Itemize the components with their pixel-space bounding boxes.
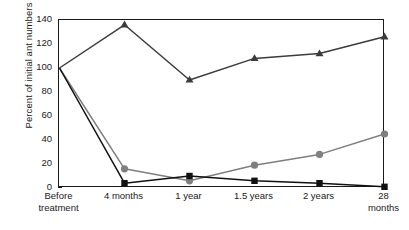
data-series-layer xyxy=(59,20,385,188)
series-circle xyxy=(60,68,389,184)
x-tick-label: Before treatment xyxy=(38,190,78,213)
square-marker xyxy=(121,180,127,186)
circle-marker xyxy=(381,130,388,137)
series-line xyxy=(60,68,385,181)
y-tick-label: 40 xyxy=(18,134,52,144)
y-tick-label: 100 xyxy=(18,62,52,72)
y-tick-label: 60 xyxy=(18,110,52,120)
circle-marker xyxy=(121,165,128,172)
x-tick-label: 28 months xyxy=(368,190,399,213)
triangle-marker xyxy=(381,33,389,40)
circle-marker xyxy=(316,151,323,158)
triangle-marker xyxy=(121,21,129,28)
square-marker xyxy=(316,180,322,186)
y-tick-label: 80 xyxy=(18,86,52,96)
y-tick-label: 20 xyxy=(18,158,52,168)
y-tick-label: 140 xyxy=(18,14,52,24)
series-line xyxy=(60,25,385,80)
x-tick-label: 1 year xyxy=(175,190,201,202)
x-tick-label: 1.5 years xyxy=(234,190,273,202)
x-tick-label: 4 months xyxy=(104,190,143,202)
circle-marker xyxy=(251,162,258,169)
x-tick-label: 2 years xyxy=(303,190,334,202)
series-square xyxy=(60,68,388,190)
square-marker xyxy=(186,173,192,179)
plot-area xyxy=(58,19,384,187)
y-tick-label: 120 xyxy=(18,38,52,48)
series-line xyxy=(60,68,385,187)
series-triangle xyxy=(60,21,389,83)
square-marker xyxy=(251,178,257,184)
line-chart-figure: Percent of initial ant numbers 020406080… xyxy=(0,0,409,230)
